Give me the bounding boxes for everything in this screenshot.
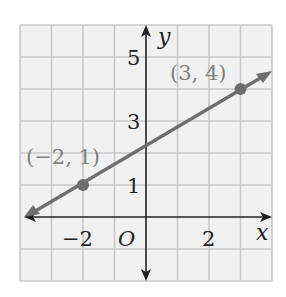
y-tick-1: 1 [127,174,140,198]
point-label-neg2-1: (−2, 1) [26,145,100,169]
point-label-3-4: (3, 4) [170,61,226,85]
x-tick-neg2: −2 [62,227,93,251]
y-tick-5: 5 [127,46,140,70]
y-axis-label: y [157,24,171,49]
x-axis-label: x [256,220,269,245]
point-neg2-1 [77,179,89,191]
coordinate-graph: y x 5 3 1 −2 2 O (3, 4) (−2, 1) [0,0,286,297]
point-3-4 [235,83,247,95]
y-tick-3: 3 [127,110,140,134]
origin-label: O [118,227,135,251]
x-tick-2: 2 [202,227,215,251]
